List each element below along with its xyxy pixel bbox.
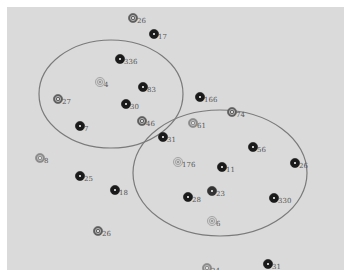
node-label: 30	[130, 103, 139, 111]
node-17[interactable]: 17	[149, 29, 167, 41]
node-4[interactable]: 4	[95, 77, 109, 89]
node-label: 26	[102, 230, 111, 238]
node-11[interactable]: 11	[217, 162, 235, 174]
node-8[interactable]: 8	[35, 153, 48, 165]
node-176[interactable]: 176	[173, 157, 196, 169]
node-label: 74	[236, 111, 245, 119]
node-26[interactable]: 26	[93, 226, 111, 238]
node-label: 31	[167, 136, 176, 144]
nodes-layer: 2617336483273046716674613185617611262518…	[35, 13, 308, 275]
node-label: 31	[272, 263, 281, 271]
node-83[interactable]: 83	[138, 82, 156, 94]
node-label: 166	[204, 96, 218, 104]
node-label: 23	[216, 190, 225, 198]
cluster-right-ellipse	[133, 110, 307, 236]
cluster-diagram: 2617336483273046716674613185617611262518…	[0, 0, 351, 280]
cluster-left-ellipse	[39, 40, 183, 148]
node-7[interactable]: 7	[75, 121, 88, 133]
node-label: 46	[146, 120, 155, 128]
node-label: 11	[226, 166, 235, 174]
node-label: 83	[147, 86, 156, 94]
node-label: 61	[197, 122, 206, 130]
node-31[interactable]: 31	[158, 132, 176, 144]
node-label: 25	[84, 175, 93, 183]
node-61[interactable]: 61	[188, 118, 206, 130]
node-23[interactable]: 23	[207, 186, 225, 198]
node-label: 17	[158, 33, 167, 41]
node-label: 8	[44, 157, 48, 165]
node-label: 26	[299, 162, 308, 170]
node-label: 56	[257, 146, 266, 154]
node-label: 6	[216, 220, 221, 228]
node-166[interactable]: 166	[195, 92, 218, 104]
node-label: 27	[62, 98, 71, 106]
node-label: 26	[137, 17, 146, 25]
node-label: 7	[84, 125, 88, 133]
node-6[interactable]: 6	[207, 216, 221, 228]
node-24[interactable]: 24	[202, 263, 220, 275]
node-330[interactable]: 330	[269, 193, 291, 205]
node-label: 28	[192, 196, 201, 204]
node-30[interactable]: 30	[121, 99, 139, 111]
node-56[interactable]: 56	[248, 142, 266, 154]
node-26[interactable]: 26	[128, 13, 146, 25]
node-label: 336	[124, 58, 138, 66]
node-31[interactable]: 31	[263, 259, 281, 271]
node-label: 18	[119, 189, 128, 197]
node-74[interactable]: 74	[227, 107, 245, 119]
node-label: 176	[182, 161, 196, 169]
node-label: 4	[104, 81, 109, 89]
node-27[interactable]: 27	[53, 94, 71, 106]
node-46[interactable]: 46	[137, 116, 155, 128]
node-label: 24	[211, 267, 220, 275]
node-25[interactable]: 25	[75, 171, 93, 183]
node-336[interactable]: 336	[115, 54, 138, 66]
node-label: 330	[278, 197, 291, 205]
node-28[interactable]: 28	[183, 192, 201, 204]
node-18[interactable]: 18	[110, 185, 128, 197]
